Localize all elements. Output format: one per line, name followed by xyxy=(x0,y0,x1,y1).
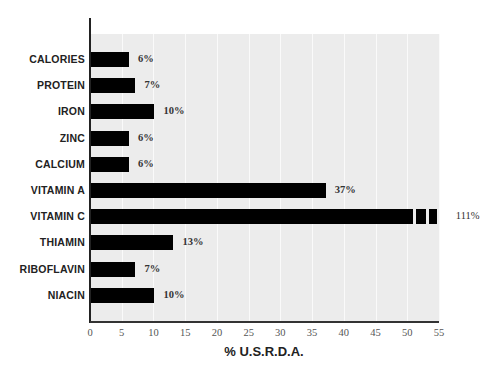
gridline xyxy=(439,34,440,322)
x-axis-title: % U.S.R.D.A. xyxy=(0,344,500,359)
x-axis-line xyxy=(90,321,439,323)
category-label: RIBOFLAVIN xyxy=(20,263,85,275)
gridline xyxy=(217,34,218,322)
bar xyxy=(91,183,326,198)
x-tick-label: 25 xyxy=(243,327,254,338)
x-tick-label: 45 xyxy=(370,327,381,338)
bar xyxy=(91,209,399,224)
x-tick-label: 40 xyxy=(339,327,350,338)
gridline xyxy=(185,34,186,322)
x-tick-label: 55 xyxy=(434,327,445,338)
value-label: 6% xyxy=(138,158,154,169)
x-tick-label: 15 xyxy=(180,327,191,338)
bar xyxy=(91,104,154,119)
category-label: IRON xyxy=(58,105,85,117)
gridline xyxy=(122,34,123,322)
bar xyxy=(91,52,129,67)
value-label: 37% xyxy=(335,184,356,195)
category-label: VITAMIN C xyxy=(30,210,85,222)
bar xyxy=(91,288,154,303)
category-label: NIACIN xyxy=(48,289,85,301)
category-label: ZINC xyxy=(60,132,85,144)
gridline xyxy=(153,34,154,322)
category-label: CALORIES xyxy=(29,53,85,65)
gridline xyxy=(376,34,377,322)
gridline xyxy=(407,34,408,322)
value-label: 10% xyxy=(163,105,184,116)
bar xyxy=(91,262,135,277)
category-label: PROTEIN xyxy=(37,79,85,91)
gridline xyxy=(344,34,345,322)
bar-break-segment xyxy=(429,209,437,224)
bar xyxy=(91,235,173,250)
bar-break-segment xyxy=(399,209,413,224)
value-label: 13% xyxy=(182,236,203,247)
gridline xyxy=(280,34,281,322)
category-label: THIAMIN xyxy=(40,236,85,248)
x-tick-label: 50 xyxy=(402,327,413,338)
bar xyxy=(91,157,129,172)
value-label: 10% xyxy=(163,289,184,300)
x-tick-label: 35 xyxy=(307,327,318,338)
bar xyxy=(91,78,135,93)
category-label: CALCIUM xyxy=(35,158,85,170)
value-label: 7% xyxy=(144,263,160,274)
gridline xyxy=(249,34,250,322)
value-label: 6% xyxy=(138,132,154,143)
x-tick-label: 10 xyxy=(148,327,159,338)
bar xyxy=(91,131,129,146)
value-label: 7% xyxy=(144,79,160,90)
x-tick-label: 30 xyxy=(275,327,286,338)
bar-break-segment xyxy=(416,209,426,224)
value-label: 6% xyxy=(138,53,154,64)
plot-area xyxy=(90,34,439,322)
gridline xyxy=(312,34,313,322)
x-tick-label: 0 xyxy=(87,327,92,338)
category-label: VITAMIN A xyxy=(31,184,85,196)
x-tick-label: 20 xyxy=(212,327,223,338)
x-tick-label: 5 xyxy=(119,327,124,338)
value-label: 111% xyxy=(456,210,480,221)
